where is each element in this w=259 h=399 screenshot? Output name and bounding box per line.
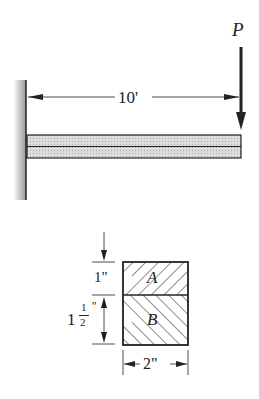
bottom-height-num: 1 (81, 302, 87, 313)
beam (27, 135, 241, 158)
length-label: 10' (118, 89, 138, 106)
cantilever-diagram (0, 0, 259, 399)
bottom-height-whole: 1 (67, 311, 76, 328)
fixed-support (13, 80, 26, 200)
top-height-label: 1" (94, 270, 108, 285)
load-label: P (232, 20, 244, 39)
bottom-height-unit: " (91, 300, 96, 312)
load-arrow-icon (236, 47, 246, 130)
bottom-height-den: 2 (80, 317, 86, 328)
section-b-label: B (147, 311, 157, 328)
section-a-label: A (147, 269, 157, 286)
width-label: 2" (143, 356, 158, 372)
